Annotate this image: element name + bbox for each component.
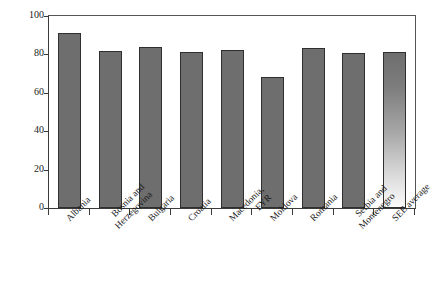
y-axis-tick-labels: 020406080100 [14,0,44,215]
x-tick-mark-3 [170,208,171,215]
bar-see-average [383,52,406,208]
bar-albania [58,33,81,208]
y-tick-label-20: 20 [18,164,44,174]
y-tick-label-60: 60 [18,87,44,97]
bar-croatia [180,52,203,208]
x-axis-tick-labels: AlbaniaBosnia andHerzegovinaBulgariaCroa… [48,216,428,287]
bar-romania [302,48,325,208]
bar-serbia-and-montenegro [342,53,365,208]
y-tick-label-100: 100 [18,10,44,20]
x-tick-mark-9 [414,208,415,215]
y-tick-mark-100 [44,16,49,17]
y-tick-mark-60 [44,93,49,94]
bar-bosnia-and-herzegovina [99,51,122,208]
x-tick-mark-6 [292,208,293,215]
y-tick-label-80: 80 [18,48,44,58]
x-tick-mark-4 [211,208,212,215]
y-tick-mark-80 [44,54,49,55]
y-tick-mark-40 [44,131,49,132]
x-tick-mark-1 [89,208,90,215]
bar-macedonia-fyr [221,50,244,208]
bar-series [49,16,415,208]
x-tick-mark-0 [48,208,49,215]
plot-area [48,15,416,209]
bar-moldova [261,77,284,208]
y-tick-mark-20 [44,170,49,171]
y-tick-label-0: 0 [18,202,44,212]
x-tick-mark-7 [333,208,334,215]
y-tick-label-40: 40 [18,125,44,135]
